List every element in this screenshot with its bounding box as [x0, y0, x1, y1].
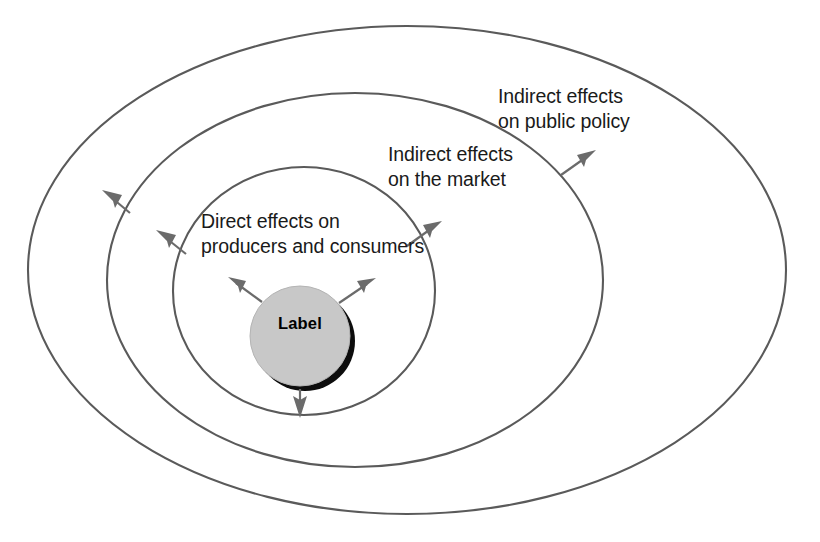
diagram-canvas: Indirect effects on public policy Indire… [0, 0, 820, 542]
ring-middle-ellipse [107, 93, 603, 467]
arrow-core-upleft [228, 277, 262, 302]
arrow-middle-upleft [102, 190, 130, 213]
ring-outer-label: Indirect effects on public policy [498, 84, 630, 134]
arrow-core-down [293, 389, 307, 418]
ring-outer-ellipse [28, 26, 786, 514]
core-node-circle [250, 286, 350, 386]
core-node-label: Label [250, 314, 350, 333]
ring-middle-label: Indirect effects on the market [388, 142, 513, 192]
arrow-inner-upleft [156, 230, 186, 254]
arrow-core-upright [339, 278, 376, 303]
diagram-vector-layer [0, 0, 820, 542]
arrow-middle-upright [561, 150, 596, 175]
ring-inner-label: Direct effects on producers and consumer… [201, 209, 424, 259]
